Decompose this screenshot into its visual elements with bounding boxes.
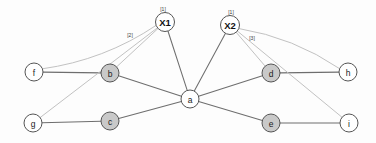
node-circle-h[interactable]: [339, 63, 357, 81]
node-circle-a[interactable]: [181, 90, 199, 108]
node-circle-f[interactable]: [25, 63, 43, 81]
edge-a-d: [199, 76, 263, 96]
edge-X2-h: [239, 29, 340, 69]
edge-a-e: [199, 102, 263, 121]
node-circle-e[interactable]: [262, 114, 280, 132]
graph-canvas: X1X2abcdefghi [1][2][1][3]: [0, 0, 376, 143]
node-b[interactable]: b: [101, 64, 119, 82]
edge-X2-d: [236, 32, 265, 66]
annotation-x1-count: [1]: [160, 6, 166, 12]
edge-X1-a: [168, 31, 187, 90]
node-e[interactable]: e: [262, 114, 280, 132]
edge-X1-f: [42, 25, 156, 68]
node-circle-X1[interactable]: [156, 13, 175, 32]
node-X1[interactable]: X1: [156, 13, 175, 32]
edge-b-a: [119, 76, 182, 96]
node-c[interactable]: c: [101, 112, 119, 130]
annotation-x1-edge-2: [2]: [127, 32, 133, 38]
node-circle-d[interactable]: [262, 64, 280, 82]
annotation-x2-count: [1]: [228, 9, 234, 15]
node-f[interactable]: f: [25, 63, 43, 81]
edge-X2-a: [194, 33, 225, 91]
node-i[interactable]: i: [340, 114, 358, 132]
node-h[interactable]: h: [339, 63, 357, 81]
edge-d-h: [280, 72, 339, 73]
edge-c-a: [119, 101, 182, 118]
node-circle-g[interactable]: [24, 114, 42, 132]
node-X2[interactable]: X2: [221, 16, 240, 35]
annotation-x2-edge-3: [3]: [249, 35, 255, 41]
edge-X2-i: [237, 31, 342, 117]
edge-X1-b: [117, 28, 158, 66]
node-d[interactable]: d: [262, 64, 280, 82]
node-g[interactable]: g: [24, 114, 42, 132]
node-circle-i[interactable]: [340, 114, 358, 132]
node-circle-b[interactable]: [101, 64, 119, 82]
edge-f-b: [43, 72, 101, 73]
node-circle-c[interactable]: [101, 112, 119, 130]
graph-svg: X1X2abcdefghi [1][2][1][3]: [0, 0, 376, 143]
node-a[interactable]: a: [181, 90, 199, 108]
edge-g-c: [42, 121, 101, 123]
node-circle-X2[interactable]: [221, 16, 240, 35]
